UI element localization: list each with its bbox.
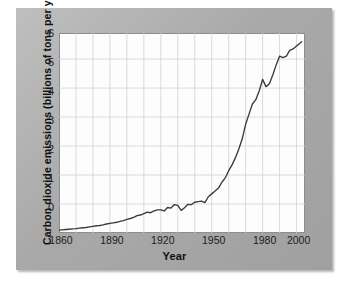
y-tick-label: 0: [4, 201, 54, 213]
x-tick-label: 1980: [253, 234, 276, 246]
y-tick-label: 4: [4, 85, 54, 97]
x-tick-label: 2000: [287, 234, 310, 246]
y-axis-ticks: 6 5 4 3 2 1 0: [0, 33, 54, 233]
x-tick-label: 1920: [151, 234, 174, 246]
plot-wrapper: [59, 33, 305, 233]
y-tick-label: 1: [4, 172, 54, 184]
y-tick-label: 5: [4, 56, 54, 68]
x-axis-ticks: 1860 1890 1920 1950 1980 2000: [0, 234, 349, 250]
x-axis-title: Year: [0, 250, 349, 262]
data-line-emissions: [59, 33, 305, 233]
y-tick-label: 6: [4, 27, 54, 39]
x-tick-label: 1860: [49, 234, 72, 246]
x-tick-label: 1950: [202, 234, 225, 246]
y-tick-label: 2: [4, 143, 54, 155]
figure-container: Carbon dioxide emissions (billions of to…: [0, 0, 349, 286]
x-tick-label: 1890: [100, 234, 123, 246]
y-tick-label: 3: [4, 114, 54, 126]
